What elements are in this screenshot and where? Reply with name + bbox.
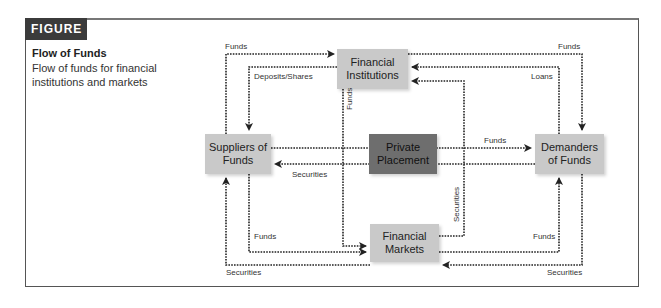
label-securities-vertical: Securities xyxy=(452,187,461,222)
label-securities-bottom-left: Securities xyxy=(226,268,261,277)
label-securities-bottom-right: Securities xyxy=(547,268,582,277)
node-suppliers-of-funds: Suppliers of Funds xyxy=(205,134,271,174)
node-private-placement: Private Placement xyxy=(369,134,437,174)
label-funds-top-right: Funds xyxy=(558,42,580,51)
arrow-institutions-to-demanders xyxy=(408,54,582,130)
node-financial-markets: Financial Markets xyxy=(370,224,439,262)
label-funds-vertical: Funds xyxy=(345,88,354,110)
node-demanders-of-funds: Demanders of Funds xyxy=(535,134,604,174)
label-securities-middle: Securities xyxy=(292,170,327,179)
label-loans: Loans xyxy=(531,72,553,81)
label-funds-bottom-left: Funds xyxy=(254,232,276,241)
label-funds-top-left: Funds xyxy=(225,42,247,51)
label-funds-middle: Funds xyxy=(484,136,506,145)
label-funds-bottom-right: Funds xyxy=(533,232,555,241)
node-financial-institutions: Financial Institutions xyxy=(337,49,408,89)
label-deposits-shares: Deposits/Shares xyxy=(254,72,313,81)
arrow-suppliers-to-institutions xyxy=(226,54,334,134)
